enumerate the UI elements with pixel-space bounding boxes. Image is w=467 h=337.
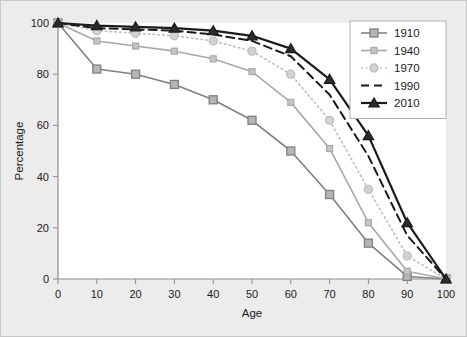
x-axis-tick-label: 40: [207, 288, 219, 300]
data-point-marker: [287, 147, 295, 155]
x-axis-tick-label: 80: [362, 288, 374, 300]
x-axis-tick-label: 90: [401, 288, 413, 300]
x-axis-tick-label: 70: [323, 288, 335, 300]
chart-figure: 0204060801000102030405060708090100AgePer…: [0, 0, 467, 337]
data-point-marker: [210, 56, 216, 62]
line-chart: 0204060801000102030405060708090100AgePer…: [1, 1, 467, 337]
y-axis-tick-label: 100: [31, 17, 49, 29]
x-axis-tick-label: 10: [91, 288, 103, 300]
data-point-marker: [94, 38, 100, 44]
data-point-marker: [404, 268, 410, 274]
data-point-marker: [170, 80, 178, 88]
legend-label-1990: 1990: [394, 80, 420, 92]
data-point-marker: [171, 48, 177, 54]
y-axis-tick-label: 60: [37, 119, 49, 131]
data-point-marker: [170, 32, 178, 40]
data-point-marker: [370, 29, 378, 37]
data-point-marker: [249, 69, 255, 75]
data-point-marker: [403, 252, 411, 260]
x-axis-tick-label: 20: [129, 288, 141, 300]
data-point-marker: [248, 47, 256, 55]
data-point-marker: [132, 70, 140, 78]
legend: 19101940197019902010: [350, 21, 446, 119]
data-point-marker: [364, 185, 372, 193]
x-axis-tick-label: 50: [246, 288, 258, 300]
data-point-marker: [288, 99, 294, 105]
data-point-marker: [326, 116, 334, 124]
data-point-marker: [209, 37, 217, 45]
data-point-marker: [327, 145, 333, 151]
y-axis-tick-label: 0: [43, 273, 49, 285]
y-axis-tick-label: 80: [37, 68, 49, 80]
legend-label-1940: 1940: [394, 45, 420, 57]
legend-label-1910: 1910: [394, 27, 420, 39]
x-axis-tick-label: 60: [285, 288, 297, 300]
legend-label-1970: 1970: [394, 62, 420, 74]
data-point-marker: [326, 191, 334, 199]
x-axis-tick-label: 100: [437, 288, 455, 300]
data-point-marker: [287, 70, 295, 78]
y-axis-title: Percentage: [13, 122, 25, 181]
data-point-marker: [248, 116, 256, 124]
y-axis-tick-label: 40: [37, 171, 49, 183]
x-axis-tick-label: 0: [55, 288, 61, 300]
x-axis-tick-label: 30: [168, 288, 180, 300]
data-point-marker: [93, 65, 101, 73]
data-point-marker: [370, 64, 378, 72]
data-point-marker: [371, 48, 377, 54]
data-point-marker: [364, 239, 372, 247]
data-point-marker: [209, 96, 217, 104]
data-point-marker: [365, 220, 371, 226]
data-point-marker: [133, 43, 139, 49]
y-axis-tick-label: 20: [37, 222, 49, 234]
x-axis-title: Age: [242, 307, 262, 319]
legend-label-2010: 2010: [394, 97, 420, 109]
